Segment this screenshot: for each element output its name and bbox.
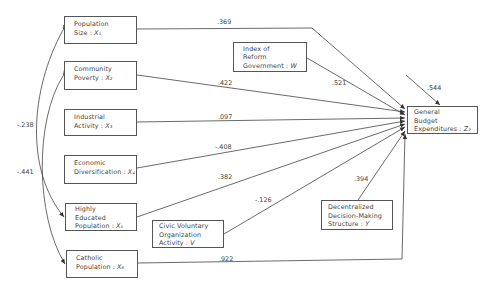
coefficient-w-z: .521 [332,79,346,87]
node-community-poverty: Community Poverty : X₂ [64,61,137,90]
node-label: Budget [414,117,477,126]
variable-symbol: X₃ [105,122,112,130]
node-catholic-population: Catholic Population : X₆ [66,250,138,278]
node-label: Size : [74,29,94,37]
node-label: Educated [75,214,136,223]
node-label: Population [74,20,136,29]
correlation-arc-x1-x5 [36,30,64,217]
correlation-x2-x6: -.441 [17,168,34,176]
node-label: Organization [159,231,223,240]
node-label: Reform [243,53,306,62]
coefficient-x1-z: .369 [217,18,231,26]
node-label: Activity : [74,122,105,130]
coefficient-residual-z: .544 [427,84,441,92]
coefficient-x6-z: .922 [219,255,233,263]
node-label: Activity : [159,239,190,247]
correlation-x1-x5: -.238 [17,121,34,129]
node-label: Community [74,65,136,74]
node-label: Expenditures : [414,125,464,133]
correlation-arc-x2-x6 [42,76,65,264]
variable-symbol: X₅ [116,222,123,230]
node-general-budget-expenditures: General Budget Expenditures : Z₂ [407,106,478,134]
node-decentralized-decision-making-structure: Decentralized Decision-Making Structure … [321,200,393,230]
node-label: Index of [243,45,306,54]
node-label: Government : [243,62,290,70]
node-population-size: Population Size : X₁ [64,16,137,44]
path-x4-z [137,121,405,168]
node-label: Population : [75,222,116,230]
variable-symbol: X₁ [94,29,101,37]
node-label: Diversification : [74,168,128,176]
variable-symbol: Y [365,220,369,228]
variable-symbol: Z₂ [464,125,471,133]
coefficient-x4-z: -.408 [215,143,232,151]
variable-symbol: W [290,62,296,70]
coefficient-y-z: .394 [354,175,368,183]
node-label: Economic [74,159,136,168]
coefficient-v-z: -.126 [255,196,272,204]
node-label: Decision-Making [328,212,392,221]
node-label: Poverty : [74,74,105,82]
node-highly-educated-population: Highly Educated Population : X₅ [65,203,137,231]
coefficient-x3-z: .097 [218,113,232,121]
variable-symbol: V [190,239,194,247]
node-label: Catholic [76,254,137,263]
node-civic-voluntary-organization-activity: Civic Voluntary Organization Activity : … [152,220,224,248]
path-x2-z [137,75,405,112]
node-label: Highly [75,205,136,214]
node-economic-diversification: Economic Diversification : X₄ [64,155,137,184]
path-x3-z [137,118,405,122]
node-label: General [414,108,477,117]
variable-symbol: X₄ [128,168,135,176]
variable-symbol: X₂ [105,74,112,82]
coefficient-x5-z: .382 [218,173,232,181]
node-index-of-reform-government: Index of Reform Government : W [233,42,307,72]
node-label: Decentralized [328,203,392,212]
coefficient-x2-z: .422 [218,79,232,87]
node-label: Population : [76,263,117,271]
variable-symbol: X₆ [117,263,124,271]
node-label: Structure : [328,220,365,228]
node-label: Industrial [74,113,136,122]
node-industrial-activity: Industrial Activity : X₃ [64,109,137,136]
node-label: Civic Voluntary [159,222,223,231]
